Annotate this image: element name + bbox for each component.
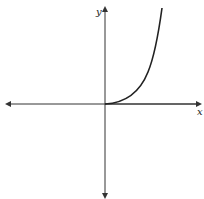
curve xyxy=(105,8,162,104)
graph: y x xyxy=(0,0,204,199)
y-axis-label: y xyxy=(95,6,102,17)
x-axis-label: x xyxy=(197,106,203,117)
